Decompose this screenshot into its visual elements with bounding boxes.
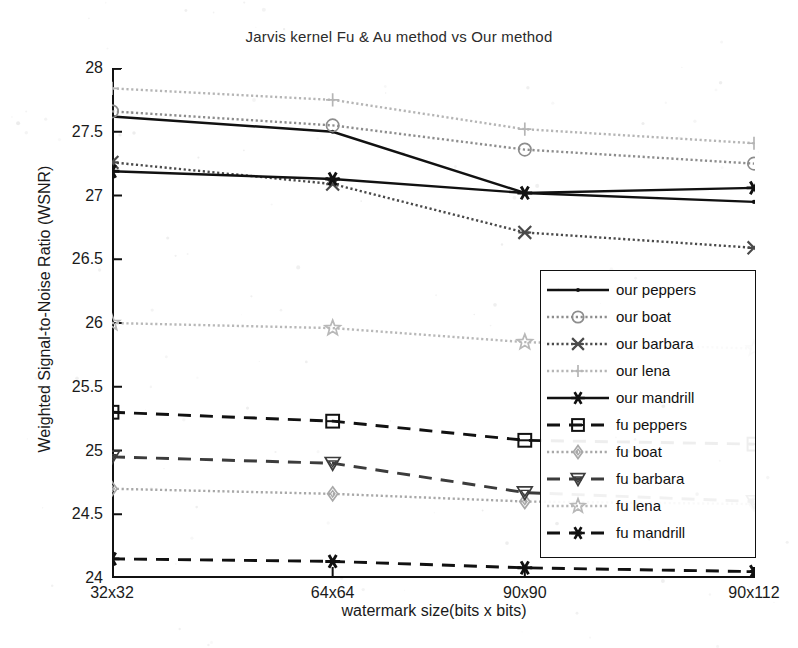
data-point-marker	[518, 226, 531, 239]
data-point-marker	[326, 93, 339, 106]
y-tick-label: 27.5	[72, 123, 112, 141]
x-axis-label: watermark size(bits x bits)	[112, 602, 756, 620]
data-point-marker	[572, 338, 584, 350]
page-title: Jarvis kernel Fu & Au method vs Our meth…	[0, 28, 798, 45]
legend-swatch-our_mandrill	[545, 386, 611, 410]
legend-label: our mandrill	[611, 389, 694, 406]
data-point-marker	[572, 419, 584, 431]
x-tick-label: 32x32	[90, 584, 134, 602]
y-tick-label: 25.5	[72, 378, 112, 396]
x-tick-label: 90x90	[503, 584, 547, 602]
legend-swatch-fu_boat	[545, 440, 611, 464]
legend-item-our_mandrill[interactable]: our mandrill	[545, 384, 749, 411]
data-point-marker	[747, 181, 755, 194]
legend-label: our boat	[611, 308, 671, 325]
legend-label: our barbara	[611, 335, 694, 352]
legend-item-our_peppers[interactable]: our peppers	[545, 276, 749, 303]
legend-item-our_barbara[interactable]: our barbara	[545, 330, 749, 357]
y-tick-label: 24.5	[72, 505, 112, 523]
x-tick-label: 90x112	[728, 584, 779, 602]
legend-swatch-fu_peppers	[545, 413, 611, 437]
y-tick-label: 26.5	[72, 250, 112, 268]
y-tick-label: 26	[85, 314, 112, 332]
legend-item-fu_lena[interactable]: fu lena	[545, 492, 749, 519]
legend-swatch-fu_lena	[545, 494, 611, 518]
data-point-marker	[747, 137, 755, 150]
data-point-marker	[112, 552, 119, 565]
legend-swatch-fu_mandrill	[545, 521, 611, 545]
legend-swatch-our_barbara	[545, 332, 611, 356]
legend-swatch-our_peppers	[545, 278, 611, 302]
legend-item-our_boat[interactable]: our boat	[545, 303, 749, 330]
data-point-marker	[752, 200, 755, 204]
series-our_mandrill	[112, 165, 755, 199]
legend-label: our peppers	[611, 281, 696, 298]
data-point-marker	[572, 364, 584, 376]
data-point-marker	[571, 392, 585, 404]
data-point-marker	[325, 555, 340, 568]
legend-label: fu mandrill	[611, 524, 685, 541]
legend-swatch-fu_barbara	[545, 467, 611, 491]
data-point-marker	[518, 123, 531, 136]
legend-label: our lena	[611, 362, 670, 379]
y-tick-label: 28	[85, 59, 112, 77]
legend-label: fu barbara	[611, 470, 684, 487]
series-our_barbara	[112, 156, 755, 254]
legend-label: fu lena	[611, 497, 661, 514]
legend-swatch-our_boat	[545, 305, 611, 329]
legend-label: fu boat	[611, 443, 662, 460]
data-point-marker	[517, 187, 532, 200]
y-tick-label: 27	[85, 187, 112, 205]
data-point-marker	[112, 165, 119, 178]
legend-item-our_lena[interactable]: our lena	[545, 357, 749, 384]
x-tick-label: 64x64	[311, 584, 355, 602]
data-point-marker	[326, 415, 339, 428]
y-axis-label: Weighted Signal-to-Noise Ratio (WSNR)	[36, 59, 54, 559]
data-point-marker	[748, 241, 755, 254]
y-tick-label: 25	[85, 442, 112, 460]
data-point-marker	[518, 434, 531, 447]
legend-item-fu_peppers[interactable]: fu peppers	[545, 411, 749, 438]
legend-item-fu_barbara[interactable]: fu barbara	[545, 465, 749, 492]
data-point-marker	[325, 320, 340, 334]
data-point-marker	[571, 527, 585, 539]
series-our_lena	[112, 82, 755, 150]
legend-item-fu_boat[interactable]: fu boat	[545, 438, 749, 465]
legend-item-fu_mandrill[interactable]: fu mandrill	[545, 519, 749, 546]
legend-label: fu peppers	[611, 416, 687, 433]
figure-canvas: Jarvis kernel Fu & Au method vs Our meth…	[0, 0, 798, 648]
legend-swatch-our_lena	[545, 359, 611, 383]
legend-box: our peppersour boatour barbaraour lenaou…	[540, 270, 756, 558]
data-point-marker	[576, 288, 580, 292]
